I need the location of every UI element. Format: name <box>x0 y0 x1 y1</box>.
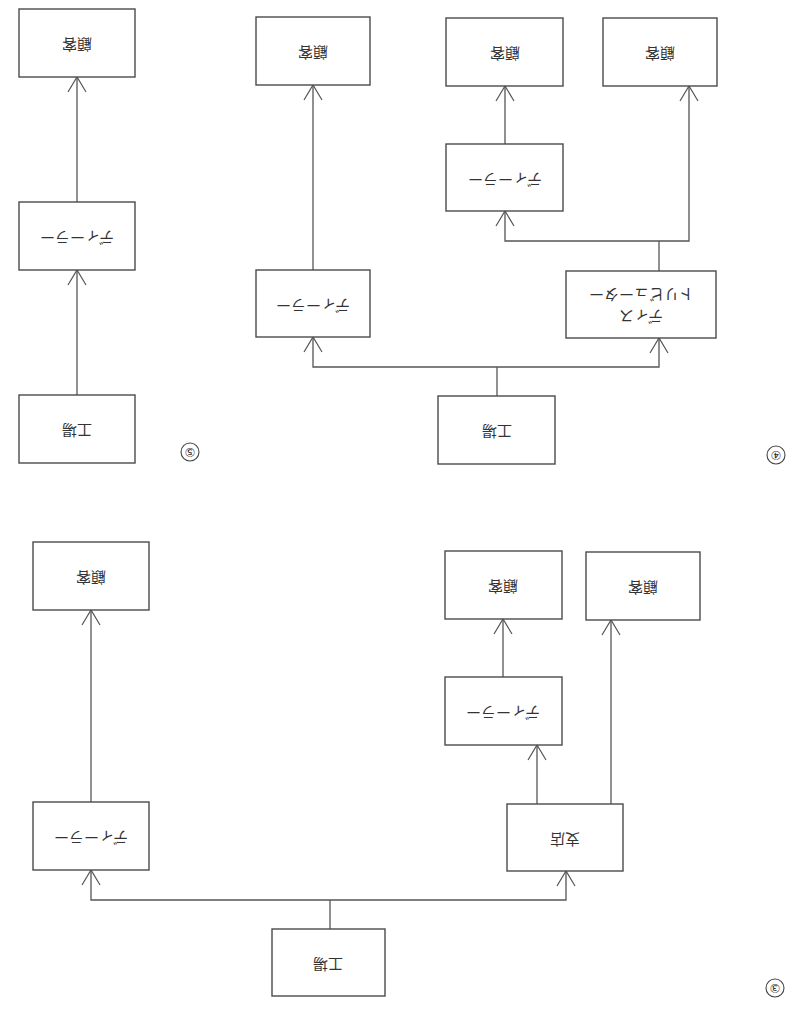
node-label: 工場 <box>482 422 512 440</box>
node-label-line1: ディス <box>619 307 663 325</box>
node-label: 顧客 <box>76 568 106 586</box>
node-customer: 顧客 <box>33 542 149 610</box>
diagram-4: 顧客 顧客 顧客 ディーラー ディーラー ディス トリビューター 工場 <box>256 17 785 464</box>
node-factory: 工場 <box>438 396 555 464</box>
node-dealer: ディーラー <box>19 202 135 270</box>
node-customer: 顧客 <box>586 552 700 620</box>
node-dealer: ディーラー <box>446 144 563 211</box>
diagram-number-5: ⑤ <box>181 443 199 461</box>
node-factory: 工場 <box>272 929 385 996</box>
node-dealer: ディーラー <box>33 802 149 870</box>
node-label: ディーラー <box>40 228 114 246</box>
node-customer: 顧客 <box>19 9 135 77</box>
svg-text:③: ③ <box>770 981 781 995</box>
node-label: 工場 <box>313 955 343 973</box>
node-distributor: ディス トリビューター <box>566 271 716 338</box>
node-label: 顧客 <box>645 44 675 62</box>
node-factory: 工場 <box>19 395 135 463</box>
node-branch: 支店 <box>507 804 623 871</box>
node-label: ディーラー <box>466 703 540 721</box>
node-label: ディーラー <box>54 828 128 846</box>
node-label: 顧客 <box>298 43 328 61</box>
node-customer: 顧客 <box>256 17 370 85</box>
node-customer: 顧客 <box>603 18 717 86</box>
edge-factory-branch <box>91 870 566 900</box>
node-label: 工場 <box>62 421 92 439</box>
diagram-number-3: ③ <box>766 979 784 997</box>
node-customer: 顧客 <box>445 551 562 619</box>
node-label-line2: トリビューター <box>589 285 694 303</box>
node-label: 支店 <box>550 830 580 848</box>
node-label: 顧客 <box>628 578 658 596</box>
svg-text:④: ④ <box>771 448 782 462</box>
node-label: ディーラー <box>276 296 350 314</box>
diagram-number-4: ④ <box>767 446 785 464</box>
edge-factory-branch <box>313 337 659 367</box>
node-dealer: ディーラー <box>445 677 562 745</box>
node-label: 顧客 <box>490 44 520 62</box>
channel-diagram-canvas: 顧客 ディーラー 工場 ⑤ <box>0 0 796 1023</box>
node-label: 顧客 <box>488 577 518 595</box>
svg-text:⑤: ⑤ <box>185 445 196 459</box>
diagram-3: 顧客 顧客 顧客 ディーラー ディーラー 支店 工場 ③ <box>33 542 784 997</box>
node-label: 顧客 <box>62 35 92 53</box>
node-dealer: ディーラー <box>256 270 370 337</box>
node-label: ディーラー <box>468 170 542 188</box>
diagram-5: 顧客 ディーラー 工場 ⑤ <box>19 9 199 463</box>
node-customer: 顧客 <box>446 18 563 86</box>
